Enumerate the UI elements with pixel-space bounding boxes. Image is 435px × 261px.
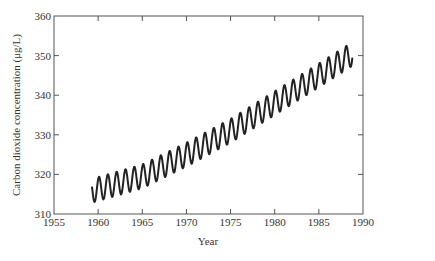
co2-line — [92, 46, 352, 202]
x-tick-label: 1975 — [220, 216, 243, 228]
x-tick-label: 1960 — [87, 216, 110, 228]
x-tick-label: 1985 — [308, 216, 331, 228]
y-tick-label: 360 — [35, 10, 52, 22]
y-tick-label: 310 — [35, 208, 52, 220]
x-tick-label: 1970 — [175, 216, 198, 228]
y-tick-label: 340 — [35, 89, 52, 101]
y-axis-title: Carbon dioxide concentration (μg/L) — [10, 34, 23, 196]
x-tick-label: 1980 — [264, 216, 287, 228]
x-axis-title: Year — [198, 235, 219, 247]
y-tick-label: 350 — [35, 50, 52, 62]
y-tick-label: 320 — [35, 168, 52, 180]
y-axis: 310320330340350360 — [35, 10, 364, 220]
x-tick-label: 1990 — [352, 216, 375, 228]
chart: 19551960196519701975198019851990 3103203… — [0, 0, 435, 261]
y-tick-label: 330 — [35, 129, 52, 141]
x-tick-label: 1965 — [131, 216, 154, 228]
